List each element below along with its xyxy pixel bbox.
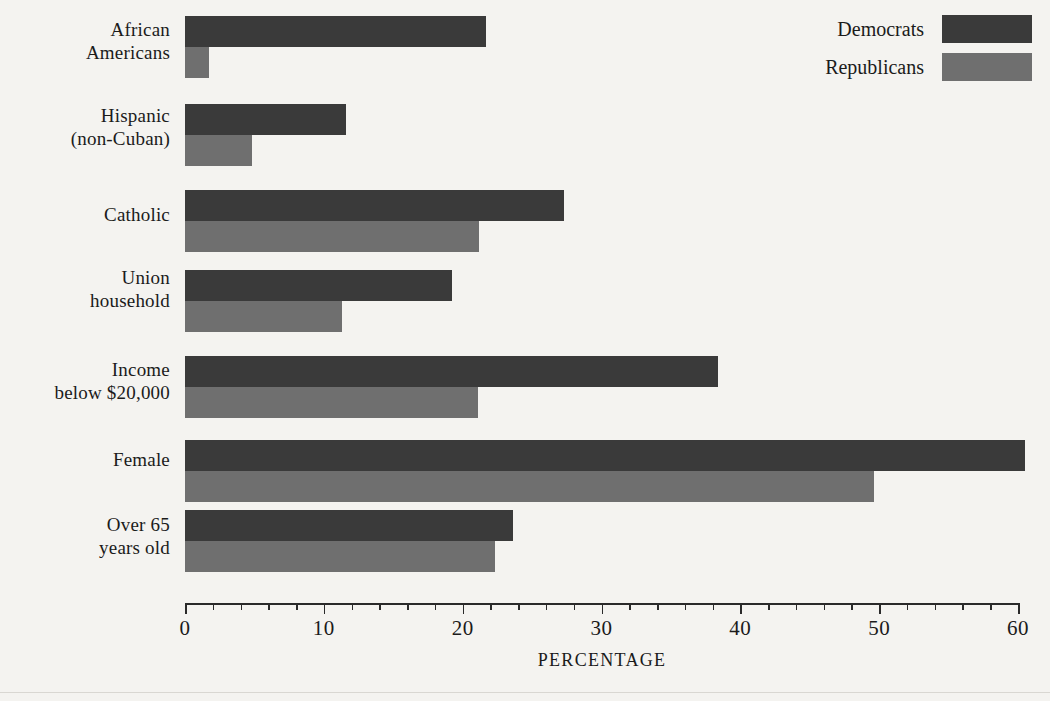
x-tick-label-20: 20 — [452, 616, 474, 641]
bar-democrats-catholic — [185, 190, 564, 221]
x-tick-12 — [352, 603, 354, 610]
bar-chart: African Americans Hispanic (non-Cuban) C… — [0, 0, 1050, 701]
category-label-line: household — [0, 289, 170, 312]
x-tick-46 — [824, 603, 826, 610]
x-tick-42 — [768, 603, 770, 610]
legend-item-republicans: Republicans — [702, 52, 1032, 82]
legend-label-democrats: Democrats — [837, 18, 924, 41]
x-tick-16 — [407, 603, 409, 610]
x-tick-48 — [851, 603, 853, 610]
x-tick-60 — [1018, 603, 1020, 614]
x-tick-14 — [379, 603, 381, 610]
category-label-union-household: Union household — [0, 266, 170, 312]
category-label-hispanic-non-cuban: Hispanic (non-Cuban) — [0, 104, 170, 150]
category-label-line: (non-Cuban) — [0, 127, 170, 150]
bar-democrats-hispanic-non-cuban — [185, 104, 346, 135]
category-label-line: Income — [0, 358, 170, 381]
x-tick-label-60: 60 — [1007, 616, 1029, 641]
bar-republicans-over-65-years-old — [185, 541, 495, 572]
x-tick-4 — [241, 603, 243, 610]
bar-republicans-union-household — [185, 301, 342, 332]
bar-republicans-female — [185, 471, 874, 502]
x-tick-24 — [518, 603, 520, 610]
x-tick-0 — [185, 603, 187, 614]
x-tick-label-0: 0 — [180, 616, 191, 641]
category-label-over-65-years-old: Over 65 years old — [0, 513, 170, 559]
x-tick-38 — [713, 603, 715, 610]
category-label-line: years old — [0, 536, 170, 559]
x-tick-2 — [213, 603, 215, 610]
x-tick-8 — [296, 603, 298, 610]
plot-area — [185, 0, 1018, 603]
category-label-line: African — [0, 18, 170, 41]
x-tick-30 — [602, 603, 604, 614]
bar-republicans-income-below-20-000 — [185, 387, 478, 418]
bar-group-over-65-years-old — [185, 510, 1018, 572]
category-label-african-americans: African Americans — [0, 18, 170, 64]
x-tick-10 — [324, 603, 326, 614]
bar-democrats-income-below-20-000 — [185, 356, 718, 387]
category-label-column: African Americans Hispanic (non-Cuban) C… — [0, 0, 170, 603]
x-tick-44 — [796, 603, 798, 610]
x-tick-50 — [879, 603, 881, 614]
legend-swatch-republicans — [942, 53, 1032, 81]
x-tick-40 — [740, 603, 742, 614]
x-tick-label-40: 40 — [729, 616, 751, 641]
x-tick-58 — [990, 603, 992, 610]
bar-republicans-african-americans — [185, 47, 209, 78]
x-tick-28 — [574, 603, 576, 610]
bar-group-hispanic-non-cuban — [185, 104, 1018, 166]
x-axis-title: PERCENTAGE — [185, 650, 1019, 671]
bar-republicans-catholic — [185, 221, 479, 252]
legend-item-democrats: Democrats — [702, 14, 1032, 44]
bar-democrats-female — [185, 440, 1025, 471]
category-label-line: Americans — [0, 41, 170, 64]
legend-label-republicans: Republicans — [825, 56, 924, 79]
bar-democrats-union-household — [185, 270, 452, 301]
category-label-line: Over 65 — [0, 513, 170, 536]
category-label-line: Union — [0, 266, 170, 289]
category-label-line: Catholic — [0, 203, 170, 226]
x-tick-56 — [962, 603, 964, 610]
x-tick-18 — [435, 603, 437, 610]
x-tick-20 — [463, 603, 465, 614]
x-tick-26 — [546, 603, 548, 610]
bar-group-catholic — [185, 190, 1018, 252]
x-tick-54 — [935, 603, 937, 610]
x-tick-22 — [490, 603, 492, 610]
x-tick-52 — [907, 603, 909, 610]
category-label-line: below $20,000 — [0, 381, 170, 404]
legend: Democrats Republicans — [702, 14, 1032, 90]
category-label-female: Female — [0, 448, 170, 471]
bar-republicans-hispanic-non-cuban — [185, 135, 252, 166]
bar-democrats-over-65-years-old — [185, 510, 513, 541]
x-tick-34 — [657, 603, 659, 610]
x-tick-label-30: 30 — [591, 616, 613, 641]
bottom-divider — [0, 692, 1050, 693]
x-tick-label-10: 10 — [313, 616, 335, 641]
x-tick-32 — [629, 603, 631, 610]
category-label-line: Female — [0, 448, 170, 471]
x-tick-36 — [685, 603, 687, 610]
bar-democrats-african-americans — [185, 16, 486, 47]
x-tick-6 — [268, 603, 270, 610]
bar-group-union-household — [185, 270, 1018, 332]
bar-group-income-below-20-000 — [185, 356, 1018, 418]
category-label-catholic: Catholic — [0, 203, 170, 226]
x-tick-label-50: 50 — [868, 616, 890, 641]
category-label-income-below-20000: Income below $20,000 — [0, 358, 170, 404]
category-label-line: Hispanic — [0, 104, 170, 127]
legend-swatch-democrats — [942, 15, 1032, 43]
bar-group-female — [185, 440, 1018, 502]
